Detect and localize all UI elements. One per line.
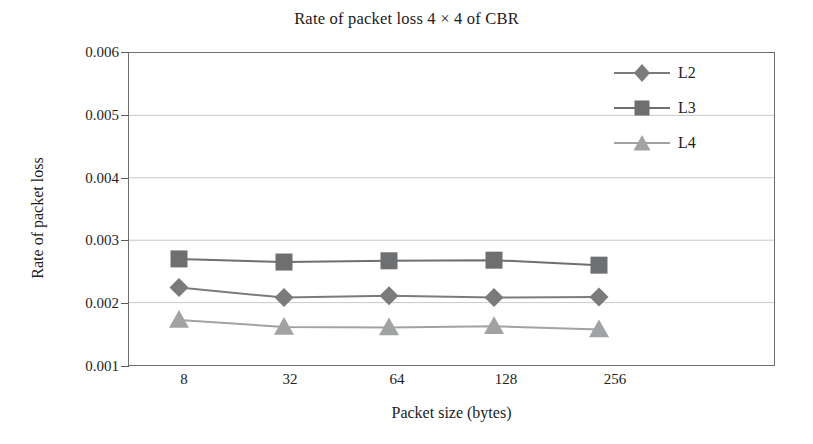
y-tick-mark [121, 366, 129, 367]
x-tick-label-8: 8 [180, 371, 188, 388]
diamond-marker-icon [590, 287, 609, 306]
legend-item-l4[interactable]: L4 [612, 125, 752, 160]
triangle-marker-icon [612, 132, 672, 154]
legend-item-l3[interactable]: L3 [612, 90, 752, 125]
y-tick-label-0006: 0.006 [0, 44, 119, 61]
y-tick-label-0002: 0.002 [0, 295, 119, 312]
y-axis: 0.006 0.005 0.004 0.003 0.002 0.001 [0, 0, 122, 444]
series-l4 [169, 310, 609, 337]
legend-item-l2[interactable]: L2 [612, 55, 752, 90]
y-tick-label-0004: 0.004 [0, 169, 119, 186]
series-layer [169, 250, 609, 337]
triangle-marker-icon [169, 310, 189, 328]
square-marker-icon [612, 97, 672, 119]
x-axis-title: Packet size (bytes) [128, 404, 775, 422]
diamond-marker-icon [170, 278, 189, 297]
legend-label-l2: L2 [672, 65, 696, 81]
chart-figure: Rate of packet loss 4 × 4 of CBR 0.006 0… [0, 0, 813, 444]
x-tick-label-256: 256 [604, 371, 627, 388]
y-tick-label-0005: 0.005 [0, 106, 119, 123]
y-tick-label-0001: 0.001 [0, 358, 119, 375]
square-marker-icon [276, 254, 293, 271]
diamond-marker-icon [485, 288, 504, 307]
square-marker-icon [591, 257, 608, 274]
legend-label-l3: L3 [672, 100, 696, 116]
triangle-marker-icon [484, 316, 504, 334]
triangle-marker-icon [379, 318, 399, 336]
y-axis-title: Rate of packet loss [29, 103, 47, 333]
x-tick-label-128: 128 [495, 371, 518, 388]
diamond-marker-icon [275, 288, 294, 307]
diamond-marker-icon [612, 62, 672, 84]
chart-legend: L2 L3 L4 [612, 55, 752, 160]
x-tick-label-32: 32 [283, 371, 298, 388]
y-tick-label-0003: 0.003 [0, 232, 119, 249]
square-marker-icon [171, 250, 188, 267]
square-marker-icon [381, 252, 398, 269]
series-l3 [171, 250, 608, 273]
legend-label-l4: L4 [672, 135, 696, 151]
square-marker-icon [486, 252, 503, 269]
x-tick-label-64: 64 [390, 371, 405, 388]
